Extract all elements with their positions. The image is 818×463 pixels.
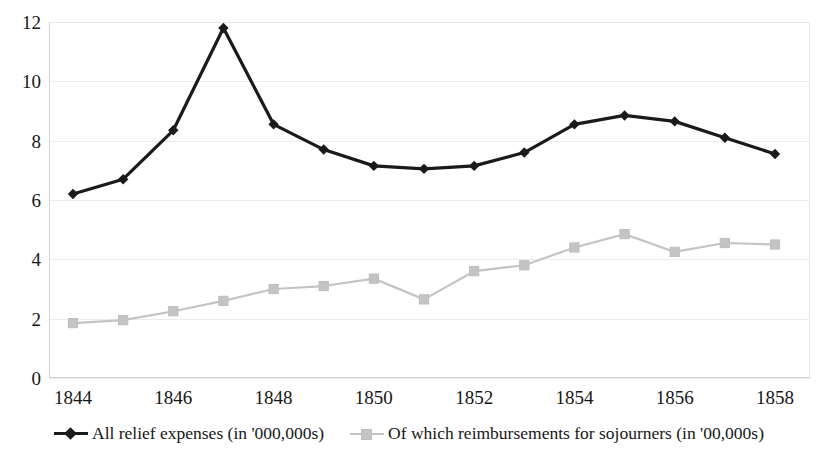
legend-swatch-diamond-icon	[54, 427, 88, 441]
data-point-diamond-icon	[419, 164, 429, 174]
data-point-square-icon	[419, 295, 428, 304]
series-reimbursements-sojourners	[68, 230, 779, 328]
legend-item-all-relief-expenses: All relief expenses (in '000,000s)	[54, 425, 324, 443]
y-axis-tick-label: 4	[8, 250, 41, 269]
series-layer	[49, 22, 810, 378]
series-all-relief-expenses	[68, 23, 780, 200]
legend: All relief expenses (in '000,000s) Of wh…	[0, 425, 818, 443]
data-point-diamond-icon	[720, 133, 730, 143]
x-axis-tick-label: 1844	[33, 388, 113, 407]
legend-label: Of which reimbursements for sojourners (…	[388, 425, 764, 443]
legend-item-reimbursements-sojourners: Of which reimbursements for sojourners (…	[350, 425, 764, 443]
legend-swatch-square-icon	[350, 427, 384, 441]
gridline	[49, 378, 810, 379]
data-point-square-icon	[119, 316, 128, 325]
x-axis-tick-label: 1852	[434, 388, 514, 407]
data-point-square-icon	[68, 319, 77, 328]
x-axis-tick-label: 1858	[735, 388, 815, 407]
data-point-square-icon	[219, 296, 228, 305]
y-axis-tick-label: 12	[8, 13, 41, 32]
data-point-diamond-icon	[670, 116, 680, 126]
x-axis-tick-label: 1856	[635, 388, 715, 407]
data-point-diamond-icon	[319, 144, 329, 154]
data-point-square-icon	[269, 284, 278, 293]
y-axis-tick-label: 0	[8, 369, 41, 388]
data-point-diamond-icon	[619, 110, 629, 120]
y-axis-tick-label: 2	[8, 309, 41, 328]
y-axis-tick-label: 10	[8, 72, 41, 91]
data-point-diamond-icon	[770, 149, 780, 159]
data-point-diamond-icon	[369, 161, 379, 171]
data-point-diamond-icon	[469, 161, 479, 171]
data-point-square-icon	[520, 261, 529, 270]
x-axis-tick-label: 1846	[133, 388, 213, 407]
x-axis-tick-label: 1848	[234, 388, 314, 407]
line-chart: 024681012 184418461848185018521854185618…	[0, 0, 818, 463]
y-axis-tick-label: 8	[8, 131, 41, 150]
data-point-square-icon	[570, 243, 579, 252]
data-point-diamond-icon	[68, 189, 78, 199]
y-axis-tick-label: 6	[8, 191, 41, 210]
data-point-square-icon	[720, 238, 729, 247]
legend-label: All relief expenses (in '000,000s)	[92, 425, 324, 443]
plot-area	[49, 22, 810, 378]
data-point-square-icon	[620, 230, 629, 239]
data-point-square-icon	[770, 240, 779, 249]
data-point-square-icon	[369, 274, 378, 283]
data-point-square-icon	[169, 307, 178, 316]
data-point-square-icon	[319, 281, 328, 290]
x-axis-tick-label: 1850	[334, 388, 414, 407]
x-axis-tick-label: 1854	[534, 388, 614, 407]
data-point-square-icon	[670, 247, 679, 256]
data-point-square-icon	[470, 267, 479, 276]
